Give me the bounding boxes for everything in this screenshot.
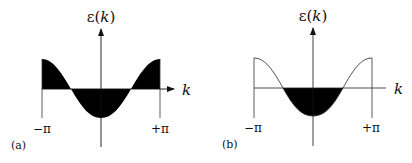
panel-a-x-axis-label: k [182, 81, 191, 99]
panel-b-label: (b) [222, 138, 238, 151]
panel-a-tick-right: +π [151, 122, 169, 136]
panel-a-label: (a) [11, 139, 26, 152]
panel-b-tick-right: +π [362, 121, 380, 135]
panel-a-y-axis-label: ε(k) [87, 8, 116, 26]
panel-a: ε(k) k −π +π (a) [11, 8, 191, 152]
panel-b-x-axis-label: k [394, 80, 403, 98]
panel-b-y-axis-label: ε(k) [299, 7, 328, 25]
band-diagram-figure: ε(k) k −π +π (a) ε(k) k −π +π (b) [0, 0, 412, 163]
panel-a-tick-left: −π [33, 122, 51, 136]
panel-b: ε(k) k −π +π (b) [222, 7, 403, 151]
panel-b-tick-left: −π [244, 121, 262, 135]
